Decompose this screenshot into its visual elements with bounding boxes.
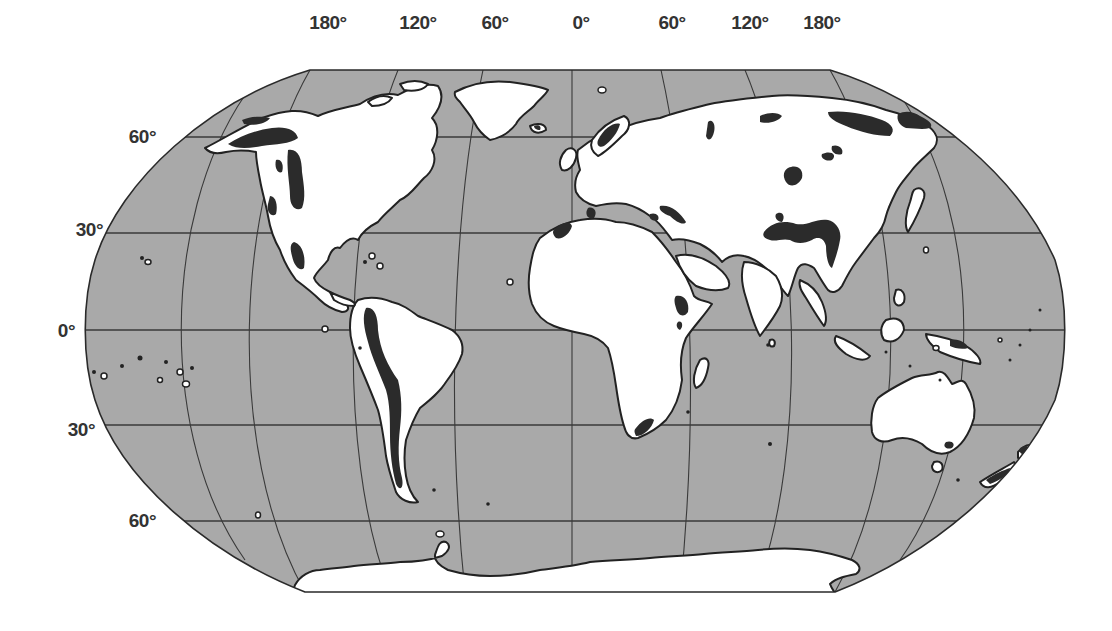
- map-canvas: [0, 0, 1112, 631]
- world-map: 180° 120° 60° 0° 60° 120° 180° 60° 30° 0…: [0, 0, 1112, 631]
